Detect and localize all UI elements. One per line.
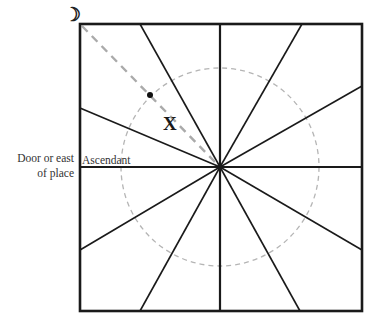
dot-marker [147,92,153,98]
door-label-line2: of place [37,167,74,180]
center-point [218,165,223,170]
moon-icon: ☽ [64,4,81,25]
ascendant-label: Ascendant [82,154,131,166]
astrology-square-diagram: ☽ X Ascendant Door or east of place [0,0,366,317]
door-label-line1: Door or east [17,152,75,164]
marker-x-label: X [163,113,177,134]
